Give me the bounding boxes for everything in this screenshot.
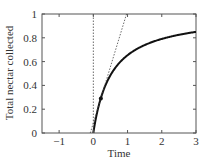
x-axis-label: Time <box>108 147 131 159</box>
series-layer <box>90 14 196 133</box>
ticks-layer: −1012300.20.40.60.81 <box>23 8 199 147</box>
x-tick-label: 3 <box>193 135 199 147</box>
series-group <box>90 14 196 133</box>
y-axis-label: Total nectar collected <box>3 25 15 120</box>
y-tick-label: 1 <box>32 8 38 20</box>
plot-frame <box>42 14 196 133</box>
y-tick-label: 0 <box>32 127 38 139</box>
x-tick-label: 0 <box>91 135 97 147</box>
y-tick-label: 0.6 <box>23 56 37 68</box>
optimal-point-marker <box>99 96 103 100</box>
x-tick-label: 1 <box>125 135 131 147</box>
y-tick-label: 0.2 <box>23 103 37 115</box>
x-tick-label: −1 <box>53 135 65 147</box>
nectar-chart: −1012300.20.40.60.81 Time Total nectar c… <box>0 0 207 162</box>
y-tick-label: 0.4 <box>23 79 37 91</box>
x-tick-label: 2 <box>159 135 165 147</box>
gain-curve <box>93 32 196 133</box>
y-tick-label: 0.8 <box>23 32 37 44</box>
tangent-line <box>90 14 126 133</box>
plot-area <box>42 14 196 133</box>
